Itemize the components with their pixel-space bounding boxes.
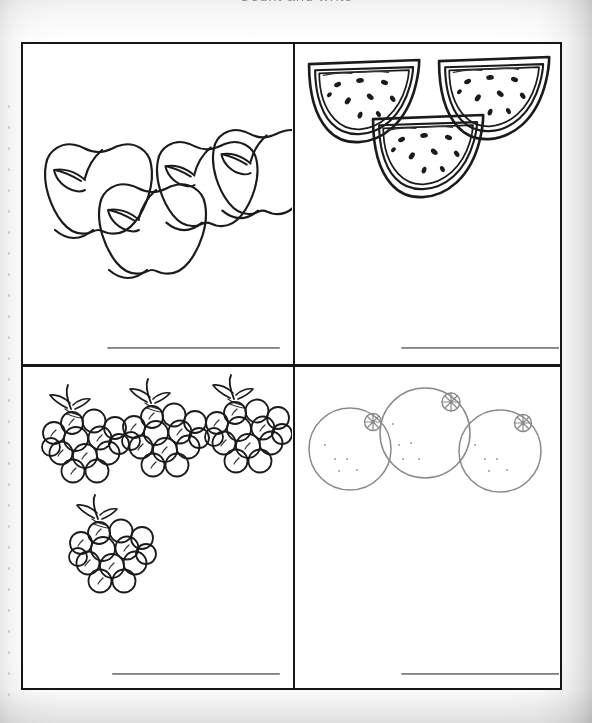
grape-bunch-4 [69,495,156,593]
worksheet-frame [21,42,562,690]
binding-holes-margin [7,96,11,696]
apples-illustration [23,44,292,364]
worksheet-page: Count and write [0,0,592,723]
answer-line-apples[interactable] [107,347,280,349]
apple-group-2 [99,184,206,278]
watermelon-slice-2 [439,57,549,139]
watermelon-slice-3 [373,115,483,197]
grape-bunch-1 [42,385,129,483]
watermelon-slice-1 [309,60,419,142]
answer-line-oranges[interactable] [401,673,559,675]
cell-watermelons [295,44,559,364]
cell-apples [23,44,292,364]
grapes-illustration [23,367,292,689]
cut-off-header-text: Count and write [0,0,592,4]
orange-3 [459,410,541,492]
grape-bunch-3 [205,375,292,473]
answer-line-watermelons[interactable] [401,347,559,349]
apple-group-1 [45,144,152,238]
oranges-illustration [295,367,559,689]
watermelons-illustration [295,44,559,364]
grape-bunch-2 [122,379,209,477]
answer-line-grapes[interactable] [112,673,280,675]
orange-1 [309,408,391,490]
cell-oranges [295,367,559,689]
orange-2 [380,388,470,478]
cell-grapes [23,367,292,689]
